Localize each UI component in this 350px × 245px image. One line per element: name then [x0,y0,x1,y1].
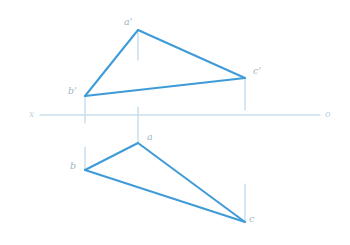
front-view-edge-a-prime-b-prime [85,30,138,96]
drawing-canvas: x o a' b' c' a b c [0,0,350,245]
vertex-label-a: a [147,132,153,142]
vertex-label-a-prime: a' [124,17,133,27]
axis-label-o: o [325,110,330,119]
vertex-label-c-prime: c' [253,66,261,76]
top-view-edge-c-a [138,143,245,222]
vertex-label-b-prime: b' [68,86,77,96]
axis-label-x: x [29,110,34,119]
top-view-edge-b-c [85,170,245,222]
top-view-group [85,143,245,222]
front-view-edge-c-prime-a-prime [138,30,245,78]
projection-drawing-svg [0,0,350,245]
top-view-edge-a-b [85,143,138,170]
vertex-label-c: c [249,214,255,224]
front-view-edge-b-prime-c-prime [85,78,245,96]
front-view-group [85,30,245,96]
vertex-label-b: b [70,161,76,171]
projector-lines-group [85,30,245,222]
